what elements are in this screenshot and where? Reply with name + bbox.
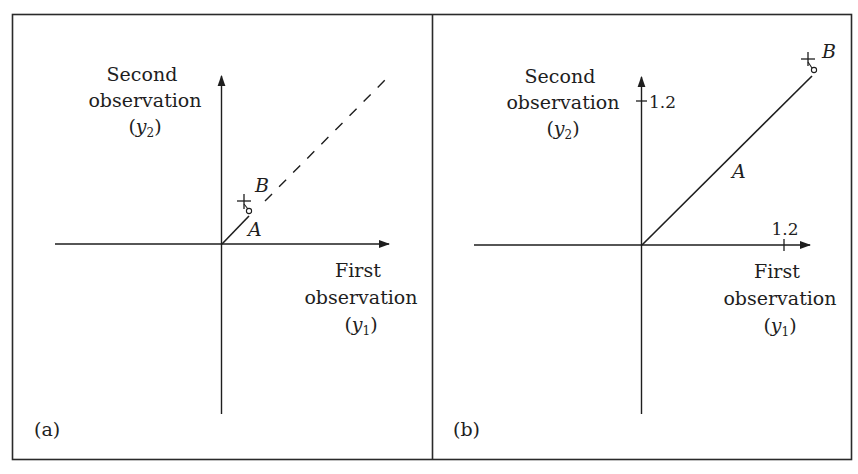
y-axis-title: Second observation — [506, 65, 619, 113]
x-axis-variable: (y1) — [344, 313, 377, 338]
vector-a-tip-marker — [246, 208, 251, 213]
x-axis-variable: (y1) — [763, 314, 796, 339]
vector-a-tip-marker — [811, 67, 816, 72]
vector-a — [222, 216, 249, 244]
x-axis-title: First observation — [723, 260, 836, 309]
panel-a: B A Second observation (y2) First observ… — [34, 63, 418, 440]
panel-label-b: (b) — [453, 418, 480, 440]
point-b-label: B — [254, 174, 269, 196]
point-b-label: B — [821, 40, 836, 62]
vector-a-label: A — [246, 218, 262, 240]
panel-label-a: (a) — [34, 418, 60, 440]
vector-a-label: A — [730, 160, 746, 182]
figure: B A Second observation (y2) First observ… — [0, 0, 858, 474]
y-tick-label: 1.2 — [649, 92, 676, 112]
y-axis-variable: (y2) — [128, 115, 161, 140]
y-axis-variable: (y2) — [546, 117, 579, 142]
panel-b: 1.2 1.2 B A Second observation (y2) Firs… — [453, 40, 837, 440]
y-axis-title: Second observation — [88, 63, 201, 111]
x-axis-title: First observation — [304, 259, 417, 308]
x-tick-label: 1.2 — [771, 219, 798, 239]
dashed-extension — [265, 74, 391, 201]
